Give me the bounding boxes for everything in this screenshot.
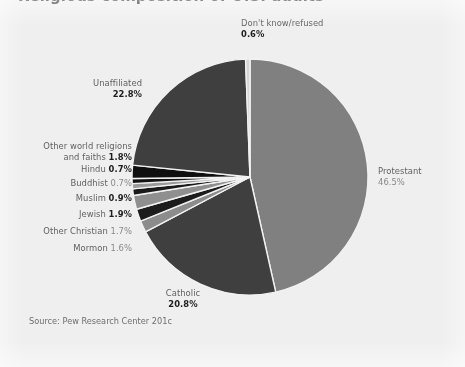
slice-label-unaffiliated: Unaffiliated 22.8% <box>47 78 142 101</box>
slice-percent-other-christian: 1.7% <box>111 226 132 236</box>
slice-label-jewish: Jewish 1.9% <box>10 209 132 220</box>
slice-label-muslim: Muslim 0.9% <box>10 193 132 204</box>
slice-name-buddhist: Buddhist <box>70 178 107 188</box>
slice-label-protestant: Protestant 46.5% <box>378 166 422 189</box>
slice-label-catholic: Catholic 20.8% <box>137 288 229 311</box>
slice-percent-hindu: 0.7% <box>109 164 132 174</box>
slice-name-unaffiliated: Unaffiliated <box>93 78 142 88</box>
slice-percent-mormon: 1.6% <box>111 243 132 253</box>
slice-name-protestant: Protestant <box>378 166 422 176</box>
slice-name-other-world-religions-line1: Other world religions <box>43 141 132 151</box>
slice-label-other-world-religions: Other world religions and faiths 1.8% <box>10 141 132 164</box>
pie-slices-group: Protestant 46.5%Catholic 20.8%Mormon 1.6… <box>132 59 368 295</box>
slice-name-dont-know-refused: Don't know/refused <box>241 18 323 28</box>
slice-name-other-christian: Other Christian <box>43 226 108 236</box>
slice-label-buddhist: Buddhist 0.7% <box>10 178 132 189</box>
slice-label-hindu: Hindu 0.7% <box>10 164 132 175</box>
slice-percent-buddhist: 0.7% <box>111 178 132 188</box>
slice-percent-dont-know-refused: 0.6% <box>241 29 264 39</box>
slice-name-mormon: Mormon <box>73 243 108 253</box>
slice-percent-jewish: 1.9% <box>109 209 132 219</box>
slice-name-hindu: Hindu <box>81 164 106 174</box>
slice-label-other-christian: Other Christian 1.7% <box>10 226 132 237</box>
slice-percent-protestant: 46.5% <box>378 177 405 187</box>
slice-label-mormon: Mormon 1.6% <box>10 243 132 254</box>
slice-percent-other-world-religions: 1.8% <box>109 152 132 162</box>
slice-percent-unaffiliated: 22.8% <box>113 89 142 99</box>
slice-label-dont-know-refused: Don't know/refused 0.6% <box>241 18 323 41</box>
slice-name-other-world-religions-line2: and faiths <box>64 152 106 162</box>
source-note: Source: Pew Research Center 201c <box>29 316 172 326</box>
slice-name-catholic: Catholic <box>166 288 200 298</box>
slice-percent-catholic: 20.8% <box>168 299 197 309</box>
slice-name-muslim: Muslim <box>76 193 106 203</box>
slice-percent-muslim: 0.9% <box>109 193 132 203</box>
slice-name-jewish: Jewish <box>79 209 106 219</box>
pie-chart-figure: Religious composition of U.S. adults Pro… <box>0 0 465 367</box>
